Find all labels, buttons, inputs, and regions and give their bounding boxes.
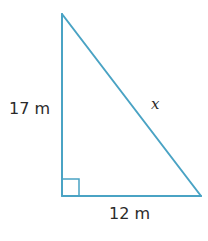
vertical-leg-label: 17 m	[9, 101, 50, 117]
horizontal-leg-label: 12 m	[109, 206, 150, 222]
hypotenuse-label: x	[151, 97, 159, 112]
right-triangle-diagram	[0, 0, 208, 241]
hypotenuse	[62, 14, 201, 196]
right-angle-marker	[62, 179, 79, 196]
